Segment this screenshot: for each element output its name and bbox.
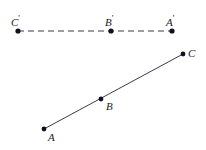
label-c-text: C xyxy=(188,47,195,59)
label-b: B xyxy=(106,101,113,112)
label-c: C xyxy=(188,48,195,59)
label-a-prime: A' xyxy=(166,14,174,28)
geometry-figure: C' B' A' A B C xyxy=(0,0,206,150)
label-b-prime: B' xyxy=(105,14,113,28)
label-c-prime: C' xyxy=(11,14,20,28)
prime-mark-c: ' xyxy=(18,13,20,23)
solid-object-line xyxy=(44,54,183,129)
label-b-prime-text: B xyxy=(105,16,112,28)
point-a xyxy=(42,127,47,132)
label-b-text: B xyxy=(106,100,113,112)
point-b xyxy=(99,97,104,102)
prime-mark-b: ' xyxy=(112,13,114,23)
label-a-prime-text: A xyxy=(166,16,173,28)
prime-mark-a: ' xyxy=(173,13,175,23)
point-a-prime xyxy=(169,28,174,33)
label-a: A xyxy=(48,132,55,143)
point-c-prime xyxy=(15,28,20,33)
label-a-text: A xyxy=(48,131,55,143)
point-c xyxy=(181,52,186,57)
figure-canvas xyxy=(0,0,206,150)
point-b-prime xyxy=(108,28,113,33)
